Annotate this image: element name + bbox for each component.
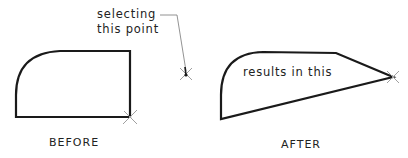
callout-leader-line xyxy=(160,15,186,71)
after-shape xyxy=(221,52,393,119)
selected-point-marker-icon xyxy=(180,67,192,80)
callout-label-line1: selecting xyxy=(97,9,156,21)
before-caption: BEFORE xyxy=(49,137,99,148)
after-caption: AFTER xyxy=(281,139,321,150)
before-shape xyxy=(16,51,130,117)
diagram-canvas xyxy=(0,0,408,158)
result-label: results in this xyxy=(243,67,332,79)
callout-label-line2: this point xyxy=(97,24,159,36)
